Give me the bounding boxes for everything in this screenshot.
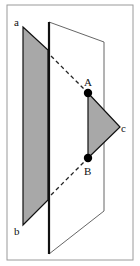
point-A-dot [84,89,92,97]
diagram-figure: a b c A B [0,0,140,266]
label-B: B [84,165,91,177]
label-A: A [84,76,92,88]
label-c: c [121,122,126,134]
label-a: a [14,16,19,28]
triangle-abc-left-part [23,27,48,225]
point-B-dot [84,154,92,162]
diagram-svg: a b c A B [0,0,140,266]
label-b: b [14,225,20,237]
